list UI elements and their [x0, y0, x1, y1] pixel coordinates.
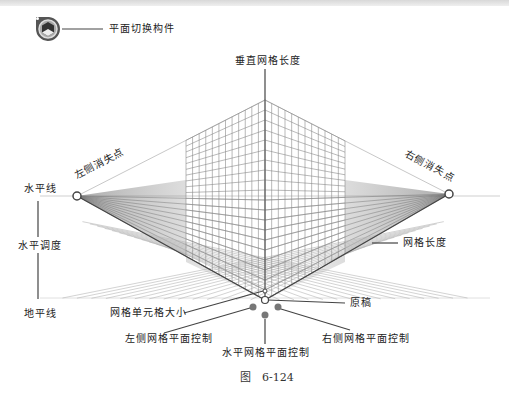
left-vanishing-point-handle[interactable] — [73, 192, 81, 200]
label-right-grid-plane-control: 右侧网格平面控制 — [322, 333, 410, 345]
left-grid-plane-control-handle[interactable] — [250, 304, 257, 311]
label-ground-level: 地平线 — [24, 308, 57, 320]
label-horizon-line: 水平线 — [24, 183, 57, 195]
plane-switch-widget-icon[interactable] — [36, 17, 60, 41]
right-vanishing-point-handle[interactable] — [445, 190, 453, 198]
label-grid-extent: 网格长度 — [403, 237, 447, 249]
label-horizon-height: 水平调度 — [18, 240, 62, 252]
label-grid-cell-size: 网格单元格大小 — [110, 307, 187, 319]
label-horizontal-grid-plane-control: 水平网格平面控制 — [222, 347, 310, 359]
label-vertical-grid-extent: 垂直网格长度 — [235, 55, 301, 67]
origin-handle[interactable] — [262, 297, 269, 304]
label-plane-switch-widget: 平面切换构件 — [109, 23, 175, 35]
horizontal-grid-plane-control-handle[interactable] — [262, 312, 269, 319]
label-origin: 原稿 — [350, 297, 372, 309]
grid-cell-size-handle[interactable] — [263, 289, 267, 293]
right-grid-plane — [265, 100, 345, 300]
right-grid-plane-control-handle[interactable] — [275, 304, 282, 311]
figure-caption: 图 6-124 — [240, 368, 294, 384]
label-left-grid-plane-control: 左侧网格平面控制 — [125, 333, 213, 345]
